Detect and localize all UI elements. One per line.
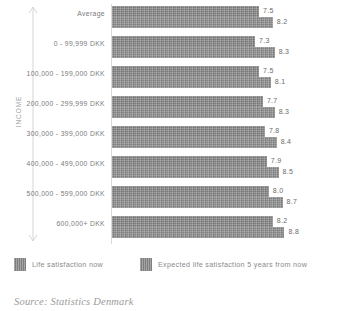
bar-value-label: 7.3 [259, 37, 270, 44]
legend-swatch-icon [140, 258, 152, 271]
bar-expected-life-satisfaction[interactable] [112, 107, 275, 118]
bar-life-satisfaction-now[interactable] [112, 96, 263, 107]
legend-swatch-icon [14, 258, 26, 271]
source-note: Source: Statistics Denmark [14, 296, 134, 307]
bar-group: 300,000 - 399,000 DKK7.88.4 [0, 126, 346, 149]
category-label: 300,000 - 399,000 DKK [0, 130, 105, 137]
bar-value-label: 8.0 [273, 187, 284, 194]
bar-life-satisfaction-now[interactable] [112, 126, 265, 137]
bar-value-label: 8.3 [279, 108, 290, 115]
plot-area: Average7.58.20 - 99,999 DKK7.38.3100,000… [0, 0, 346, 246]
bar-value-label: 8.2 [277, 217, 288, 224]
category-label: 400,000 - 499,000 DKK [0, 160, 105, 167]
bar-life-satisfaction-now[interactable] [112, 186, 269, 197]
bar-value-label: 7.7 [267, 97, 278, 104]
bar-value-label: 8.3 [279, 48, 290, 55]
bar-value-label: 7.5 [263, 67, 274, 74]
bar-expected-life-satisfaction[interactable] [112, 197, 283, 208]
bar-value-label: 7.9 [271, 157, 282, 164]
category-label: Average [0, 10, 105, 17]
bar-life-satisfaction-now[interactable] [112, 6, 259, 17]
legend-item-label: Life satisfaction now [32, 260, 103, 269]
bar-group: 500,000 - 599,000 DKK8.08.7 [0, 186, 346, 209]
bar-expected-life-satisfaction[interactable] [112, 17, 273, 28]
bar-life-satisfaction-now[interactable] [112, 156, 267, 167]
bar-life-satisfaction-now[interactable] [112, 36, 255, 47]
bar-group: 0 - 99,999 DKK7.38.3 [0, 36, 346, 59]
bar-group: 600,000+ DKK8.28.8 [0, 216, 346, 239]
category-label: 200,000 - 299,999 DKK [0, 100, 105, 107]
bar-expected-life-satisfaction[interactable] [112, 77, 271, 88]
bar-expected-life-satisfaction[interactable] [112, 47, 275, 58]
bar-group: 100,000 - 199,000 DKK7.58.1 [0, 66, 346, 89]
legend-item-label: Expected life satisfaction 5 years from … [158, 260, 307, 269]
bar-value-label: 8.4 [281, 138, 292, 145]
category-label: 600,000+ DKK [0, 220, 105, 227]
bar-value-label: 8.1 [275, 78, 286, 85]
bar-life-satisfaction-now[interactable] [112, 216, 273, 227]
bar-expected-life-satisfaction[interactable] [112, 137, 277, 148]
bar-expected-life-satisfaction[interactable] [112, 227, 284, 238]
category-label: 0 - 99,999 DKK [0, 40, 105, 47]
income-life-satisfaction-chart: INCOME Average7.58.20 - 99,999 DKK7.38.3… [0, 0, 346, 311]
category-label: 100,000 - 199,000 DKK [0, 70, 105, 77]
bar-value-label: 8.8 [288, 228, 299, 235]
bar-value-label: 8.5 [283, 168, 294, 175]
bar-expected-life-satisfaction[interactable] [112, 167, 279, 178]
bar-value-label: 8.7 [287, 198, 298, 205]
bar-group: 400,000 - 499,000 DKK7.98.5 [0, 156, 346, 179]
bar-group: 200,000 - 299,999 DKK7.78.3 [0, 96, 346, 119]
bar-value-label: 7.5 [263, 7, 274, 14]
bar-group: Average7.58.2 [0, 6, 346, 29]
category-label: 500,000 - 599,000 DKK [0, 190, 105, 197]
bar-value-label: 8.2 [277, 18, 288, 25]
bar-life-satisfaction-now[interactable] [112, 66, 259, 77]
legend: Life satisfaction now Expected life sati… [0, 258, 346, 280]
bar-value-label: 7.8 [269, 127, 280, 134]
